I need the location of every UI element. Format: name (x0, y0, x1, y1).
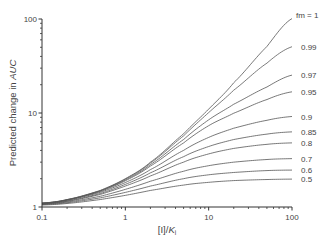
curve-label: 0.8 (301, 139, 313, 148)
chart: 0.1110100110100 fm = 10.990.970.950.90.8… (0, 0, 322, 247)
curve-fm-1 (42, 19, 292, 204)
curve-fm-0-97 (42, 75, 292, 203)
curve-label: 0.95 (301, 88, 317, 97)
curve-label: 0.85 (301, 128, 317, 137)
x-tick-label: 100 (285, 213, 299, 222)
curve-label: 0.6 (301, 166, 313, 175)
ticks-group (39, 19, 293, 211)
y-tick-label: 1 (33, 203, 38, 212)
curve-fm-0-95 (42, 92, 292, 204)
x-tick-label: 0.1 (36, 213, 48, 222)
y-tick-label: 100 (24, 15, 38, 24)
curve-label: 0.5 (301, 175, 313, 184)
x-axis-title: [I]/Ki (158, 224, 176, 236)
curve-fm-0-85 (42, 132, 292, 204)
x-tick-label: 1 (123, 213, 128, 222)
axes-group (42, 19, 292, 207)
curve-labels-group: fm = 10.990.970.950.90.850.80.70.60.5 (296, 11, 319, 185)
x-tick-label: 10 (204, 213, 213, 222)
curve-label: 0.97 (301, 71, 317, 80)
curve-label: fm = 1 (296, 11, 319, 20)
y-tick-label: 10 (28, 109, 37, 118)
curve-label: 0.7 (301, 155, 313, 164)
curve-label: 0.9 (301, 113, 313, 122)
tick-labels-group: 0.1110100110100 (24, 15, 300, 222)
curve-label: 0.99 (301, 43, 317, 52)
y-axis-title: Predicted change in AUC (7, 60, 18, 167)
curves-group (42, 19, 292, 205)
